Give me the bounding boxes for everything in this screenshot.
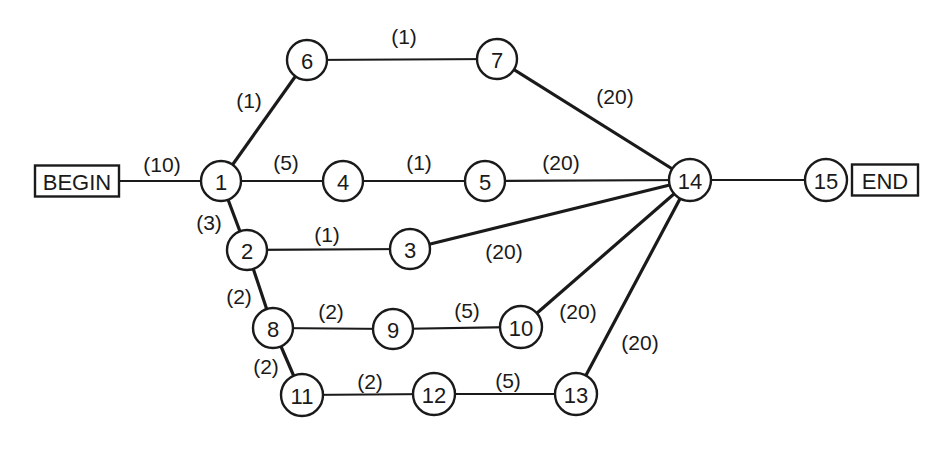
edge-6-7 [307, 59, 497, 60]
edge-2-3 [247, 249, 410, 250]
node-label: 4 [337, 170, 349, 195]
node-label: 15 [814, 169, 838, 194]
edges-layer [119, 59, 826, 395]
edge-weight-label: (2) [318, 300, 344, 323]
node-label: 8 [267, 317, 279, 342]
node-label: 2 [241, 239, 253, 264]
edge-weight-label: (20) [559, 300, 596, 323]
terminal-label: END [862, 169, 908, 194]
terminal-end: END [852, 165, 918, 196]
edge-5-14 [485, 180, 690, 181]
edge-13-14 [576, 180, 690, 394]
node-3: 3 [390, 229, 430, 269]
edge-weight-label: (20) [621, 331, 658, 354]
edge-weight-label: (1) [236, 89, 262, 112]
node-label: 1 [215, 170, 227, 195]
edge-7-14 [497, 59, 690, 180]
node-label: 9 [387, 318, 399, 343]
node-7: 7 [477, 39, 517, 79]
node-8: 8 [253, 308, 293, 348]
edge-weight-label: (1) [391, 25, 417, 48]
nodes-layer: 123456789101112131415BEGINEND [35, 39, 918, 416]
edge-weight-label: (20) [542, 151, 579, 174]
edge-weight-label: (5) [273, 151, 299, 174]
node-9: 9 [373, 309, 413, 349]
edge-weight-label: (20) [485, 240, 522, 263]
node-label: 10 [509, 316, 533, 341]
node-label: 13 [564, 383, 588, 408]
node-10: 10 [500, 306, 542, 348]
terminal-begin: BEGIN [35, 166, 119, 197]
node-14: 14 [669, 159, 711, 201]
node-1: 1 [201, 161, 241, 201]
node-2: 2 [227, 230, 267, 270]
node-4: 4 [323, 161, 363, 201]
node-label: 6 [301, 49, 313, 74]
node-13: 13 [555, 373, 597, 415]
node-label: 14 [678, 169, 702, 194]
node-label: 7 [491, 48, 503, 73]
node-label: 5 [479, 170, 491, 195]
node-label: 3 [404, 238, 416, 263]
node-label: 12 [422, 383, 446, 408]
node-12: 12 [413, 373, 455, 415]
edge-weight-label: (2) [226, 285, 252, 308]
node-11: 11 [281, 374, 323, 416]
edge-weight-label: (2) [253, 355, 279, 378]
node-5: 5 [465, 161, 505, 201]
edge-weight-label: (1) [314, 223, 340, 246]
node-6: 6 [287, 40, 327, 80]
node-15: 15 [805, 159, 847, 201]
edge-weight-label: (10) [143, 153, 180, 176]
edge-weight-label: (2) [357, 370, 383, 393]
edge-weight-label: (5) [495, 369, 521, 392]
node-label: 11 [291, 384, 314, 409]
edge-weight-label: (5) [454, 299, 480, 322]
diagram-svg: (10)(1)(1)(20)(5)(1)(20)(3)(1)(20)(2)(2)… [0, 0, 952, 450]
terminal-label: BEGIN [43, 170, 111, 195]
edge-weight-label: (3) [196, 211, 222, 234]
network-diagram: (10)(1)(1)(20)(5)(1)(20)(3)(1)(20)(2)(2)… [0, 0, 952, 450]
edge-weight-label: (20) [596, 85, 633, 108]
edge-weight-label: (1) [406, 151, 432, 174]
